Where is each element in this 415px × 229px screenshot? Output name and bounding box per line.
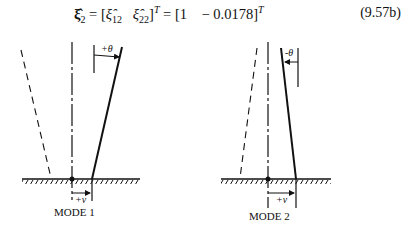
ground-hatch xyxy=(221,180,331,184)
nu-label: +ν xyxy=(276,194,288,205)
mode-2-caption: MODE 2 xyxy=(249,210,290,222)
deflected-member xyxy=(92,47,122,179)
theta-label: +θ xyxy=(101,43,113,54)
dashed-position xyxy=(240,48,257,178)
nu-label: +ν xyxy=(75,194,87,205)
ground-hatch xyxy=(22,180,140,184)
mode-1-figure: +θ +ν MODE 1 xyxy=(21,42,140,218)
pivot-dot xyxy=(70,177,75,182)
mode-1-caption: MODE 1 xyxy=(54,206,95,218)
mode-2-figure: -θ +ν MODE 2 xyxy=(221,42,331,222)
theta-label: -θ xyxy=(285,47,293,58)
theta-arrow xyxy=(94,55,119,57)
mode-shapes-diagram: +θ +ν MODE 1 -θ +ν MODE 2 xyxy=(0,0,415,229)
deflected-member xyxy=(281,48,296,179)
pivot-dot xyxy=(266,177,271,182)
dashed-position xyxy=(21,50,51,178)
